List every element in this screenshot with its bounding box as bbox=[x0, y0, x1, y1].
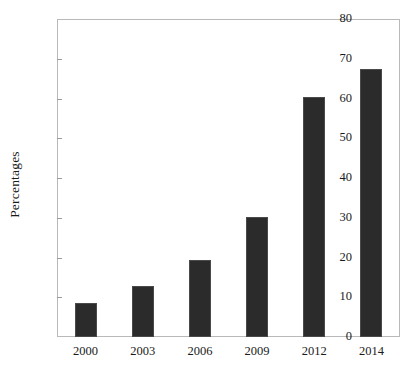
plot-area bbox=[57, 19, 400, 337]
bar bbox=[75, 303, 97, 337]
bar bbox=[246, 217, 268, 337]
x-tick-label: 2006 bbox=[170, 344, 230, 359]
bar-chart-figure: Percentages 01020304050607080 2000200320… bbox=[0, 0, 413, 369]
bar bbox=[189, 260, 211, 337]
x-tick-label: 2000 bbox=[56, 344, 116, 359]
x-tick-label: 2014 bbox=[341, 344, 401, 359]
y-axis-title: Percentages bbox=[0, 0, 30, 369]
bar bbox=[303, 97, 325, 337]
x-tick-label: 2009 bbox=[227, 344, 287, 359]
x-tick-label: 2012 bbox=[284, 344, 344, 359]
x-tick-label: 2003 bbox=[113, 344, 173, 359]
bar bbox=[360, 69, 382, 337]
bar bbox=[132, 286, 154, 337]
